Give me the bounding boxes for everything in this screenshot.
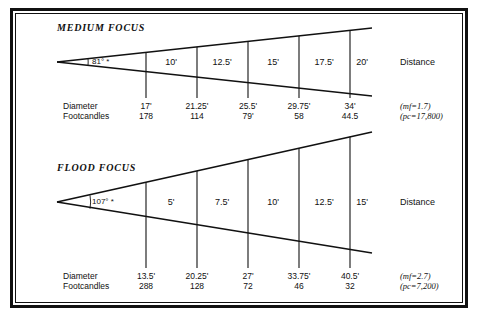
footcandles-value-medium-2: 114 xyxy=(190,111,204,121)
peak-candlepower-note-flood: (pc=7,200) xyxy=(400,281,439,291)
diameter-value-flood-3: 27' xyxy=(242,271,253,281)
footcandles-value-medium-1: 178 xyxy=(139,111,153,121)
beam-spread-diagram-page: MEDIUM FOCUS 81° * 10' 12.5' 15' 17.5' 2… xyxy=(0,0,481,321)
diameter-value-flood-2: 20.25' xyxy=(186,271,209,281)
section-title-medium-focus: MEDIUM FOCUS xyxy=(57,22,145,33)
diameter-value-medium-5: 34' xyxy=(344,101,355,111)
row-label-diameter-medium: Diameter xyxy=(63,101,97,111)
distance-tick-label-medium-5: 20' xyxy=(356,57,368,67)
beam-angle-label-medium: 81° * xyxy=(92,57,109,66)
distance-tick-label-medium-2: 12.5' xyxy=(212,57,231,67)
footcandles-value-medium-4: 58 xyxy=(294,111,303,121)
footcandles-value-flood-4: 46 xyxy=(294,281,303,291)
distance-tick-label-flood-4: 12.5' xyxy=(314,197,333,207)
diameter-value-medium-1: 17' xyxy=(140,101,151,111)
footcandles-value-flood-1: 288 xyxy=(139,281,153,291)
diagram-frame xyxy=(10,8,468,308)
distance-tick-label-medium-3: 15' xyxy=(267,57,279,67)
distance-tick-label-flood-3: 10' xyxy=(267,197,279,207)
distance-tick-label-medium-4: 17.5' xyxy=(314,57,333,67)
diameter-value-medium-3: 25.5' xyxy=(239,101,257,111)
distance-axis-label-medium: Distance xyxy=(400,57,435,67)
diameter-value-flood-4: 33.75' xyxy=(288,271,311,281)
distance-tick-label-flood-2: 7.5' xyxy=(215,197,229,207)
row-label-footcandles-flood: Footcandles xyxy=(63,281,109,291)
row-label-diameter-flood: Diameter xyxy=(63,271,97,281)
distance-tick-label-flood-5: 15' xyxy=(356,197,368,207)
distance-tick-label-flood-1: 5' xyxy=(168,197,175,207)
footcandles-value-medium-5: 44.5 xyxy=(342,111,359,121)
beam-angle-label-flood: 107° * xyxy=(92,197,114,206)
row-label-footcandles-medium: Footcandles xyxy=(63,111,109,121)
peak-candlepower-note-medium: (pc=17,800) xyxy=(400,111,443,121)
footcandles-value-flood-5: 32 xyxy=(345,281,354,291)
diagram-frame-inner-rule xyxy=(15,13,463,303)
maintenance-factor-note-flood: (mf=2.7) xyxy=(400,271,431,281)
diameter-value-flood-1: 13.5' xyxy=(137,271,155,281)
diameter-value-medium-4: 29.75' xyxy=(288,101,311,111)
distance-tick-label-medium-1: 10' xyxy=(165,57,177,67)
diameter-value-flood-5: 40.5' xyxy=(341,271,359,281)
footcandles-value-medium-3: 79' xyxy=(242,111,253,121)
footcandles-value-flood-2: 128 xyxy=(190,281,204,291)
diameter-value-medium-2: 21.25' xyxy=(186,101,209,111)
maintenance-factor-note-medium: (mf=1.7) xyxy=(400,101,431,111)
section-title-flood-focus: FLOOD FOCUS xyxy=(57,162,136,173)
distance-axis-label-flood: Distance xyxy=(400,197,435,207)
footcandles-value-flood-3: 72 xyxy=(243,281,252,291)
